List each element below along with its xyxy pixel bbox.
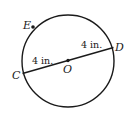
- label-e: E: [22, 19, 31, 32]
- label-od-length: 4 in.: [81, 39, 102, 50]
- label-o: O: [63, 63, 72, 76]
- label-c: C: [12, 69, 21, 82]
- label-oc-length: 4 in.: [32, 55, 53, 66]
- label-d: D: [114, 41, 124, 54]
- point-e: [31, 25, 35, 29]
- circle-diagram: E C D O 4 in. 4 in.: [0, 0, 128, 117]
- center-point-o: [66, 59, 69, 62]
